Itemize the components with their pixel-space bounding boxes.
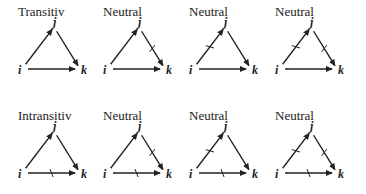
node-i-label: i (103, 64, 106, 76)
node-k-label: k (81, 64, 87, 76)
node-k-label: k (338, 168, 344, 180)
edge-jk-arrow (57, 31, 78, 65)
triad-panel: Neutralijk (275, 5, 361, 102)
node-j-label: j (310, 16, 313, 28)
node-k-label: k (252, 168, 258, 180)
edge-jk-arrow (228, 31, 249, 65)
triad-panel: Intransitivijk (18, 109, 104, 194)
node-k-label: k (81, 168, 87, 180)
node-j-label: j (138, 16, 141, 28)
triad-arrows (275, 5, 361, 102)
edge-ij-arrow (26, 29, 53, 64)
triad-panel: Neutralijk (103, 5, 189, 102)
triad-panel: Neutralijk (103, 109, 189, 194)
node-i-label: i (275, 168, 278, 180)
node-k-label: k (252, 64, 258, 76)
triad-arrows (103, 5, 189, 102)
triad-panel: Transitivijk (18, 5, 104, 102)
edge-ij-arrow (111, 29, 138, 64)
edge-ij-arrow (26, 133, 53, 168)
node-j-label: j (224, 16, 227, 28)
triad-panel: Neutralijk (275, 109, 361, 194)
triad-panel: Neutralijk (189, 5, 275, 102)
node-i-label: i (103, 168, 106, 180)
node-i-label: i (275, 64, 278, 76)
node-k-label: k (166, 64, 172, 76)
triad-arrows (189, 109, 275, 194)
node-j-label: j (310, 120, 313, 132)
node-i-label: i (18, 64, 21, 76)
node-i-label: i (189, 168, 192, 180)
node-k-label: k (338, 64, 344, 76)
node-j-label: j (53, 16, 56, 28)
triad-arrows (18, 5, 104, 102)
node-i-label: i (189, 64, 192, 76)
edge-jk-arrow (57, 135, 78, 169)
triad-arrows (103, 109, 189, 194)
edge-ij-arrow (111, 133, 138, 168)
node-j-label: j (224, 120, 227, 132)
triad-arrows (275, 109, 361, 194)
triad-arrows (18, 109, 104, 194)
node-k-label: k (166, 168, 172, 180)
node-j-label: j (53, 120, 56, 132)
triad-arrows (189, 5, 275, 102)
node-i-label: i (18, 168, 21, 180)
edge-jk-arrow (228, 135, 249, 169)
node-j-label: j (138, 120, 141, 132)
triad-panel: Neutralijk (189, 109, 275, 194)
